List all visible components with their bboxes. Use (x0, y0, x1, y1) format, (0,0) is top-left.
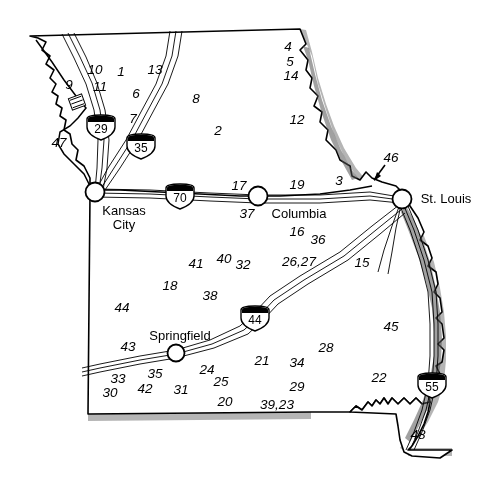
site-label-48: 48 (410, 428, 425, 442)
site-label-40: 40 (216, 252, 231, 266)
city-dot-columbia[interactable] (249, 187, 268, 206)
annotation-arrow-46 (374, 165, 385, 181)
site-label-1: 1 (117, 65, 125, 79)
site-label-46: 46 (383, 151, 398, 165)
site-label-16: 16 (289, 225, 304, 239)
city-label-springfield: Springfield (149, 329, 210, 343)
shield-number: 55 (425, 380, 439, 394)
site-label-9: 9 (65, 78, 73, 92)
site-label-22: 22 (371, 371, 386, 385)
site-label-41: 41 (188, 257, 203, 271)
shield-number: 35 (134, 141, 148, 155)
site-label-45: 45 (383, 320, 398, 334)
site-label-35: 35 (147, 367, 162, 381)
site-label-14: 14 (283, 69, 298, 83)
map-artwork: 2935704455 (0, 0, 503, 494)
site-label-32: 32 (235, 258, 250, 272)
site-label-37: 37 (239, 207, 254, 221)
site-label-36: 36 (310, 233, 325, 247)
site-label-33: 33 (110, 372, 125, 386)
shield-number: 70 (173, 191, 187, 205)
site-label-6: 6 (132, 87, 140, 101)
site-label-28: 28 (318, 341, 333, 355)
city-label-line2: City (102, 218, 145, 232)
city-label-st-louis: St. Louis (421, 192, 472, 206)
site-label-2: 2 (214, 124, 222, 138)
shield-number: 44 (248, 313, 262, 327)
site-label-42: 42 (137, 382, 152, 396)
city-label-line1: Kansas (102, 204, 145, 218)
site-label-29: 29 (289, 380, 304, 394)
site-label-43: 43 (120, 340, 135, 354)
missouri-map: 2935704455 10113911687247451412463171937… (0, 0, 503, 494)
site-label-26-27: 26,27 (282, 255, 316, 269)
site-label-44: 44 (114, 301, 129, 315)
site-label-15: 15 (354, 256, 369, 270)
site-label-47: 47 (51, 136, 66, 150)
site-label-7: 7 (129, 112, 137, 126)
site-label-21: 21 (254, 354, 269, 368)
site-label-12: 12 (289, 113, 304, 127)
site-label-10: 10 (87, 63, 102, 77)
site-label-5: 5 (286, 55, 294, 69)
shield-number: 29 (94, 122, 108, 136)
city-dot-st-louis[interactable] (393, 190, 412, 209)
city-label-kansas-city: KansasCity (102, 204, 145, 231)
city-dot-kansas-city[interactable] (86, 183, 105, 202)
site-label-4: 4 (284, 40, 292, 54)
site-label-39-23: 39,23 (260, 398, 294, 412)
site-label-18: 18 (162, 279, 177, 293)
site-label-19: 19 (289, 178, 304, 192)
site-label-13: 13 (147, 63, 162, 77)
city-label-columbia: Columbia (272, 207, 327, 221)
site-label-17: 17 (231, 179, 246, 193)
site-label-30: 30 (102, 386, 117, 400)
site-label-20: 20 (217, 395, 232, 409)
site-label-25: 25 (213, 375, 228, 389)
site-label-34: 34 (289, 356, 304, 370)
site-label-11: 11 (93, 80, 107, 94)
site-label-38: 38 (202, 289, 217, 303)
site-label-31: 31 (173, 383, 188, 397)
site-label-8: 8 (192, 92, 200, 106)
site-label-3: 3 (335, 174, 343, 188)
site-label-24: 24 (199, 363, 214, 377)
city-dot-springfield[interactable] (168, 345, 185, 362)
